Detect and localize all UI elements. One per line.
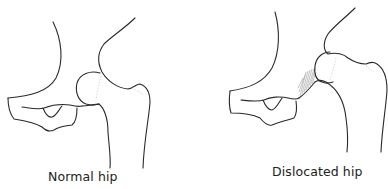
dislocated-trochanter-plate [366,66,374,72]
dislocated-pelvis-outline [229,91,296,125]
normal-growth-plate [96,76,101,100]
dislocated-ilium-outline [230,12,278,91]
normal-femoral-head [76,72,100,105]
dislocated-hip-diagram [229,8,387,152]
dislocated-growth-plate [330,58,336,80]
dislocated-obturator-notch [263,98,282,110]
dislocated-femur-upper-outline [324,8,387,152]
normal-ilium-outline [8,22,61,98]
hip-comparison-figure: Normal hip Dislocated hip [0,0,388,189]
normal-femur-medial-outline [82,104,110,168]
hip-illustration [0,0,388,189]
normal-ischial-line [22,105,82,109]
normal-femur-upper-outline [99,18,150,168]
caption-normal-hip: Normal hip [48,169,118,184]
dislocated-femur-medial-outline [315,81,348,153]
dislocated-capsule-hatching [298,69,316,96]
caption-dislocated-hip: Dislocated hip [272,164,363,179]
normal-trochanter-plate [132,88,143,95]
normal-hip-diagram [8,18,150,168]
normal-pelvis-outline [8,98,77,131]
dislocated-ischial-line [241,97,299,101]
